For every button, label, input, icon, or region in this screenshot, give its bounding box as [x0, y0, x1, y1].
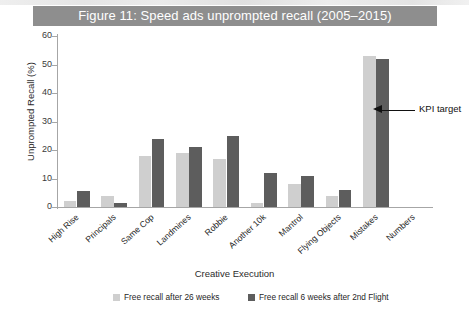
x-axis-category-label: Principals: [83, 212, 117, 244]
annotation-label: KPI target: [419, 103, 461, 114]
bar: [77, 191, 90, 207]
kpi-target-annotation: KPI target: [369, 103, 469, 119]
x-axis-category-label: Mistakes: [348, 212, 380, 242]
x-axis-category-label: Landmines: [155, 212, 193, 248]
bar: [376, 59, 389, 207]
x-axis-category-label: Same Cop: [118, 212, 155, 247]
bar: [301, 176, 314, 207]
bar: [339, 190, 352, 207]
bar: [251, 203, 264, 207]
bar: [176, 153, 189, 207]
chart-legend: Free recall after 26 weeksFree recall 6 …: [0, 291, 469, 305]
bar: [227, 136, 240, 207]
x-axis-category-label: High Rise: [46, 212, 80, 244]
bar: [264, 173, 277, 207]
bar-group: [176, 36, 202, 207]
legend-item[interactable]: Free recall 6 weeks after 2nd Flight: [248, 291, 389, 303]
legend-label: Free recall after 26 weeks: [124, 292, 219, 302]
bar: [64, 201, 77, 207]
legend-label: Free recall 6 weeks after 2nd Flight: [259, 292, 389, 302]
x-axis-title: Creative Execution: [0, 268, 469, 279]
x-axis-category-label: Another 10k: [226, 212, 267, 250]
bar: [101, 196, 114, 207]
bar-group: [288, 36, 314, 207]
bar: [152, 139, 165, 207]
bar: [363, 56, 376, 207]
legend-item[interactable]: Free recall after 26 weeks: [113, 291, 219, 303]
y-axis-title-wrap: Unprompted Recall (%): [4, 36, 24, 207]
bar-group: [139, 36, 165, 207]
legend-swatch-icon: [248, 294, 255, 301]
bar-group: [101, 36, 127, 207]
bar: [326, 196, 339, 207]
scan-artifact: [0, 0, 469, 5]
x-axis-category-labels: High RisePrincipalsSame CopLandminesRobb…: [0, 208, 469, 266]
figure-title: Figure 11: Speed ads unprompted recall (…: [33, 6, 437, 26]
bar: [288, 184, 301, 207]
bar: [139, 156, 152, 207]
x-axis-category-label: Numbers: [384, 212, 417, 243]
bar-group: [326, 36, 352, 207]
y-axis-title: Unprompted Recall (%): [25, 42, 36, 182]
bar-group: [213, 36, 239, 207]
legend-swatch-icon: [113, 294, 120, 301]
bar-group: [64, 36, 90, 207]
annotation-leader-line: [381, 110, 415, 111]
x-axis-category-label: Robbie: [203, 212, 230, 238]
plot-bars: [58, 36, 432, 207]
bar-group: [251, 36, 277, 207]
bar-group: [400, 36, 426, 207]
x-axis-category-label: Mantrol: [277, 212, 305, 239]
bar: [114, 203, 127, 207]
bar-group: [363, 36, 389, 207]
bar: [189, 147, 202, 207]
figure-container: Figure 11: Speed ads unprompted recall (…: [0, 0, 469, 324]
bar: [213, 159, 226, 207]
